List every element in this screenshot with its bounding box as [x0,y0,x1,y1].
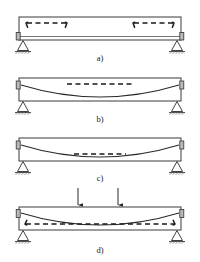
anchorage-right-d [180,210,184,218]
anchorage-right-b [180,81,184,89]
anchorage-right-a [180,33,184,41]
panel-label-d: d) [96,245,103,255]
panel-label-a: a) [97,53,104,63]
panel-label-b: b) [96,114,103,124]
panel-label-c: c) [97,173,104,183]
anchorage-left-c [16,141,20,149]
anchorage-left-a [16,33,20,41]
beam-reinforcement-figure: a) [0,0,200,262]
anchorage-left-d [16,210,20,218]
anchorage-left-b [16,81,20,89]
anchorage-right-c [180,141,184,149]
